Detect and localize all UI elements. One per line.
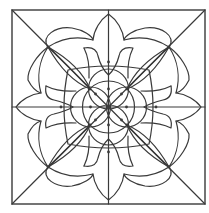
intersection-dot: [155, 106, 158, 109]
intersection-dot: [168, 166, 171, 169]
intersection-dot: [126, 88, 129, 91]
intersection-dot: [107, 124, 110, 127]
intersection-dot: [89, 124, 92, 127]
petal-shape: [84, 136, 89, 166]
intersection-dot: [120, 93, 123, 96]
intersection-dot: [47, 166, 50, 169]
petal-shape: [84, 48, 89, 78]
intersection-dot: [107, 151, 110, 154]
mandala-figure: [0, 0, 209, 213]
intersection-dot: [89, 88, 92, 91]
intersection-dot: [94, 119, 97, 122]
outer-arc: [124, 167, 169, 176]
intersection-dot: [125, 106, 128, 109]
intersection-dot: [126, 124, 129, 127]
outer-arc: [124, 38, 169, 47]
intersection-dot: [107, 88, 110, 91]
outer-arc: [48, 167, 93, 176]
petal-shape: [46, 86, 76, 91]
intersection-dot: [89, 106, 92, 109]
intersection-dot: [94, 93, 97, 96]
intersection-dot: [60, 106, 63, 109]
mandala-drawing: [0, 0, 209, 213]
intersection-dot: [120, 119, 123, 122]
intersection-dot: [168, 46, 171, 49]
outer-arc: [48, 38, 93, 47]
intersection-dot: [47, 46, 50, 49]
intersection-dot: [107, 61, 110, 64]
intersection-dot: [107, 106, 110, 109]
petal-shape: [141, 86, 171, 91]
